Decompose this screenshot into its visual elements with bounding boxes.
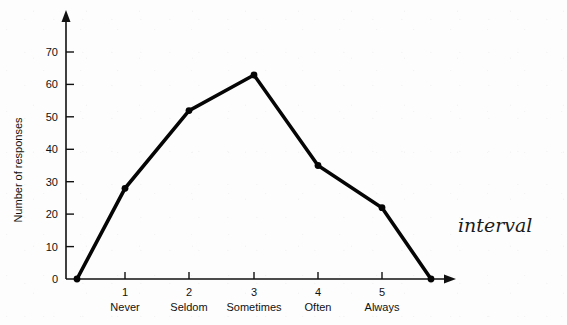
data-series-line [77, 75, 431, 279]
x-tick-number-2: 2 [186, 286, 192, 298]
x-category-often: Often [305, 301, 332, 313]
y-tick-label-20: 20 [46, 208, 58, 220]
y-axis-title: Number of responses [12, 117, 24, 223]
x-category-sometimes: Sometimes [226, 301, 282, 313]
x-category-labels: Never Seldom Sometimes Often Always [110, 301, 400, 313]
y-tick-label-50: 50 [46, 111, 58, 123]
x-category-seldom: Seldom [170, 301, 207, 313]
y-tick-label-70: 70 [46, 46, 58, 58]
x-tick-marks [125, 272, 382, 279]
chart-figure: 70 60 50 40 30 20 10 0 Number of respons… [0, 0, 567, 325]
x-category-always: Always [365, 301, 400, 313]
handwritten-annotation: interval [458, 214, 532, 236]
y-axis-arrow-icon [62, 10, 71, 22]
chart-canvas: 70 60 50 40 30 20 10 0 Number of respons… [0, 0, 567, 325]
data-point-1 [122, 185, 129, 192]
y-tick-label-10: 10 [46, 241, 58, 253]
y-tick-label-30: 30 [46, 176, 58, 188]
y-tick-label-60: 60 [46, 78, 58, 90]
y-axis [62, 10, 71, 279]
data-point-2 [186, 107, 193, 114]
x-tick-number-5: 5 [379, 286, 385, 298]
x-tick-number-4: 4 [315, 286, 321, 298]
data-point-4 [315, 162, 322, 169]
y-tick-label-0: 0 [52, 273, 58, 285]
data-point-6 [428, 276, 435, 283]
data-point-3 [251, 72, 258, 79]
x-tick-numbers: 1 2 3 4 5 [122, 286, 385, 298]
x-axis-arrow-icon [444, 275, 456, 284]
y-tick-label-40: 40 [46, 143, 58, 155]
x-tick-number-3: 3 [251, 286, 257, 298]
data-point-markers [74, 72, 435, 283]
data-point-5 [379, 204, 386, 211]
y-tick-labels: 70 60 50 40 30 20 10 0 [46, 46, 58, 285]
x-tick-number-1: 1 [122, 286, 128, 298]
x-category-never: Never [110, 301, 140, 313]
data-point-0 [74, 276, 81, 283]
y-tick-marks [66, 52, 74, 247]
